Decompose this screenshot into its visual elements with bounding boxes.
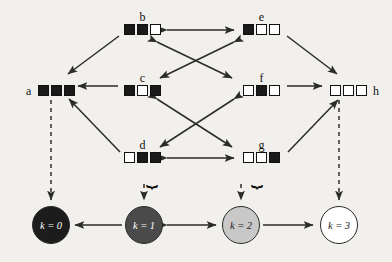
node-cells-f [243,85,280,96]
node-label-g: g [259,139,265,151]
cell-b-2 [150,24,161,35]
node-label-a: a [26,85,31,97]
node-label-h: h [373,85,379,97]
cell-e-1 [256,24,267,35]
cell-f-1 [256,85,267,96]
node-h[interactable]: h [330,85,367,96]
cell-c-1 [137,85,148,96]
node-e[interactable]: e [243,24,280,35]
brace-d: ⏟ [137,166,167,186]
cell-d-1 [137,152,148,163]
node-label-b: b [140,11,146,23]
k-class-k2[interactable]: k = 2 [222,206,260,244]
edge-e-c [160,42,234,78]
node-label-d: d [140,139,146,151]
edge-g-h [288,100,338,152]
node-cells-g [243,152,280,163]
node-label-c: c [140,72,145,84]
cell-h-0 [330,85,341,96]
edge-b-a [68,36,119,74]
node-f[interactable]: f [243,85,280,96]
cell-a-0 [38,85,49,96]
k-class-k0[interactable]: k = 0 [32,206,70,244]
node-c[interactable]: c [124,85,161,96]
cell-g-2 [269,152,280,163]
cell-a-1 [51,85,62,96]
cell-f-0 [243,85,254,96]
node-cells-a [38,85,75,96]
node-label-f: f [260,72,264,84]
edge-d-a [69,99,120,152]
cell-c-0 [124,85,135,96]
cell-b-0 [124,24,135,35]
node-label-e: e [259,11,264,23]
cell-e-2 [269,24,280,35]
node-cells-d [124,152,161,163]
diagram-canvas: abcd⏟efg⏟h k = 0k = 1k = 2k = 3 [0,0,392,262]
cell-c-2 [150,85,161,96]
cell-f-2 [269,85,280,96]
node-cells-e [243,24,280,35]
cell-a-2 [64,85,75,96]
cell-d-2 [150,152,161,163]
edge-c-g [157,99,232,147]
cell-g-1 [256,152,267,163]
k-class-k1[interactable]: k = 1 [125,206,163,244]
cell-h-1 [343,85,354,96]
node-cells-b [124,24,161,35]
edge-e-h [287,36,337,74]
cell-d-0 [124,152,135,163]
node-d[interactable]: d [124,152,161,163]
cell-b-1 [137,24,148,35]
edge-f-d [160,99,234,147]
node-cells-c [124,85,161,96]
brace-g: ⏟ [242,166,272,186]
node-g[interactable]: g [243,152,280,163]
k-class-k3[interactable]: k = 3 [320,206,358,244]
node-b[interactable]: b [124,24,161,35]
edge-b-f [157,42,232,78]
cell-h-2 [356,85,367,96]
cell-g-0 [243,152,254,163]
cell-e-0 [243,24,254,35]
node-a[interactable]: a [38,85,75,96]
node-cells-h [330,85,367,96]
